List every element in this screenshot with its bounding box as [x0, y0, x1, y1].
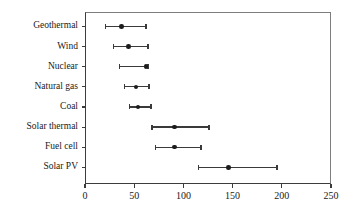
range-line: [114, 46, 148, 47]
chart-figure: GeothermalWindNuclearNatural gasCoalSola…: [0, 0, 350, 214]
series-layer: GeothermalWindNuclearNatural gasCoalSola…: [0, 0, 350, 214]
x-axis-tick: [232, 184, 233, 188]
range-line: [129, 106, 151, 107]
range-cap-high: [150, 104, 151, 109]
data-point-marker: [126, 44, 131, 49]
range-cap-low: [151, 125, 152, 130]
range-cap-low: [113, 44, 114, 49]
category-label-nuclear: Nuclear: [0, 61, 78, 71]
category-label-geothermal: Geothermal: [0, 20, 78, 30]
category-label-coal: Coal: [0, 101, 78, 111]
x-axis-tick: [134, 184, 135, 188]
category-label-wind: Wind: [0, 41, 78, 51]
range-cap-low: [155, 145, 156, 150]
data-point-marker: [136, 105, 141, 110]
x-axis-tick-label: 250: [311, 190, 350, 201]
category-tick: [82, 86, 86, 87]
data-point-marker: [172, 125, 177, 130]
range-line: [106, 26, 146, 27]
range-cap-high: [145, 24, 146, 29]
range-cap-high: [276, 165, 277, 170]
x-axis-tick-label: 150: [213, 190, 253, 201]
range-cap-high: [147, 44, 148, 49]
x-axis-tick: [183, 184, 184, 188]
data-point-marker: [226, 165, 231, 170]
range-line: [156, 147, 201, 148]
range-line: [198, 167, 277, 168]
x-axis-tick-label: 100: [163, 190, 203, 201]
category-label-fuel-cell: Fuel cell: [0, 141, 78, 151]
x-axis-tick-label: 200: [262, 190, 302, 201]
category-tick: [82, 46, 86, 47]
range-cap-low: [105, 24, 106, 29]
data-point-marker: [172, 145, 177, 150]
category-tick: [82, 147, 86, 148]
range-cap-high: [200, 145, 201, 150]
range-cap-high: [148, 84, 149, 89]
category-label-solar-thermal: Solar thermal: [0, 121, 78, 131]
data-point-marker: [119, 24, 124, 29]
category-tick: [82, 127, 86, 128]
range-cap-low: [119, 64, 120, 69]
x-axis-tick: [330, 184, 331, 188]
x-axis-tick: [84, 184, 85, 188]
data-point-marker: [134, 85, 139, 90]
range-cap-low: [124, 84, 125, 89]
range-line: [152, 126, 209, 127]
range-cap-low: [129, 104, 130, 109]
x-axis-tick: [281, 184, 282, 188]
category-tick: [82, 26, 86, 27]
range-cap-high: [208, 125, 209, 130]
x-axis-tick-label: 0: [65, 190, 105, 201]
x-axis-tick-label: 50: [114, 190, 154, 201]
category-label-solar-pv: Solar PV: [0, 161, 78, 171]
category-tick: [82, 66, 86, 67]
category-tick: [82, 167, 86, 168]
category-tick: [82, 106, 86, 107]
category-label-natural-gas: Natural gas: [0, 81, 78, 91]
range-cap-low: [198, 165, 199, 170]
